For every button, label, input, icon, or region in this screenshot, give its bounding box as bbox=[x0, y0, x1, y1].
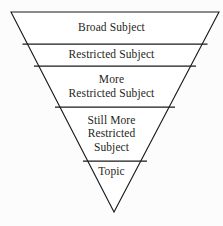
funnel-outline-svg bbox=[0, 0, 223, 226]
triangle-outline bbox=[11, 12, 219, 212]
funnel-diagram: Broad Subject Restricted Subject More Re… bbox=[0, 0, 223, 226]
